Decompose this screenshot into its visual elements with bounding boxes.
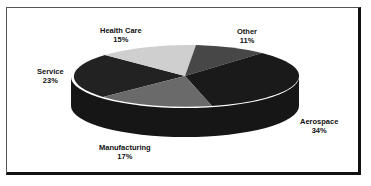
label-service: Service 23% <box>37 67 64 85</box>
label-service-value: 23% <box>37 76 64 85</box>
label-manufacturing-name: Manufacturing <box>99 143 151 152</box>
label-health-care-name: Health Care <box>100 26 142 35</box>
label-health-care-value: 15% <box>100 35 142 44</box>
pie-chart <box>0 0 371 186</box>
label-aerospace-name: Aerospace <box>300 117 338 126</box>
label-aerospace: Aerospace 34% <box>300 117 338 135</box>
label-other-value: 11% <box>237 36 257 45</box>
label-manufacturing-value: 17% <box>99 152 151 161</box>
label-health-care: Health Care 15% <box>100 26 142 44</box>
label-manufacturing: Manufacturing 17% <box>99 143 151 161</box>
label-service-name: Service <box>37 67 64 76</box>
label-other: Other 11% <box>237 27 257 45</box>
label-aerospace-value: 34% <box>300 126 338 135</box>
label-other-name: Other <box>237 27 257 36</box>
